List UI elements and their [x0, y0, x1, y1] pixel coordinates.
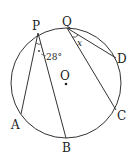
label-b: B [62, 141, 71, 155]
label-p: P [32, 19, 40, 33]
angle-dot [38, 50, 40, 52]
angle-label-28: 28° [46, 52, 62, 62]
center-dot [65, 83, 68, 86]
chord-qc [67, 28, 116, 110]
label-a: A [10, 118, 20, 132]
label-c: C [117, 109, 126, 123]
circle-diagram: P Q D C B A O 28° x [0, 0, 135, 163]
chord-pa [21, 33, 38, 114]
label-o: O [60, 69, 70, 83]
chord-qd [67, 28, 116, 58]
chord-pb [38, 33, 66, 138]
angle-arc-q [72, 35, 78, 37]
angle-label-x: x [77, 38, 82, 48]
label-d: D [117, 52, 127, 66]
label-q: Q [62, 15, 72, 29]
